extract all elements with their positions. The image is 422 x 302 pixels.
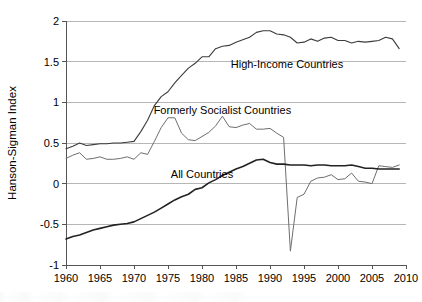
series-label-formerly-socialist-countries: Formerly Socialist Countries: [154, 104, 292, 116]
x-tick-label-2000: 2000: [326, 272, 350, 284]
series-label-high-income-countries: High-Income Countries: [231, 58, 344, 70]
x-tick-label-1990: 1990: [258, 272, 282, 284]
series-label-group: High-Income CountriesFormerly Socialist …: [154, 58, 344, 180]
y-tick-label-1: 1: [53, 96, 59, 108]
y-axis-title: Hanson-Sigman Index: [6, 86, 18, 200]
y-tick-label-0: 0: [53, 178, 59, 190]
x-tick-label-2010: 2010: [394, 272, 418, 284]
y-tick-label--1: -1: [49, 259, 59, 271]
y-tick-label-0.5: 0.5: [44, 137, 59, 149]
y-tick-label-group: -1-0.500.511.52: [40, 15, 59, 271]
x-tick-label-1985: 1985: [224, 272, 248, 284]
y-tick-group: [62, 21, 66, 265]
x-tick-label-1965: 1965: [88, 272, 112, 284]
chart-figure: -1-0.500.511.52 196019651970197519801985…: [0, 0, 422, 302]
series-label-all-countries: All Countries: [171, 168, 234, 180]
hanson-sigman-index-line-chart: -1-0.500.511.52 196019651970197519801985…: [0, 0, 422, 302]
x-tick-group: [66, 265, 406, 269]
y-tick-label--0.5: -0.5: [40, 218, 59, 230]
x-tick-label-1975: 1975: [156, 272, 180, 284]
x-tick-label-group: 1960196519701975198019851990199520002005…: [54, 272, 418, 284]
x-tick-label-1960: 1960: [54, 272, 78, 284]
y-tick-label-2: 2: [53, 15, 59, 27]
x-tick-label-2005: 2005: [360, 272, 384, 284]
series-line-high-income-countries: [66, 31, 399, 149]
x-tick-label-1980: 1980: [190, 272, 214, 284]
y-tick-label-1.5: 1.5: [44, 56, 59, 68]
x-tick-label-1970: 1970: [122, 272, 146, 284]
x-tick-label-1995: 1995: [292, 272, 316, 284]
page-bleed-artifact: [0, 292, 300, 302]
